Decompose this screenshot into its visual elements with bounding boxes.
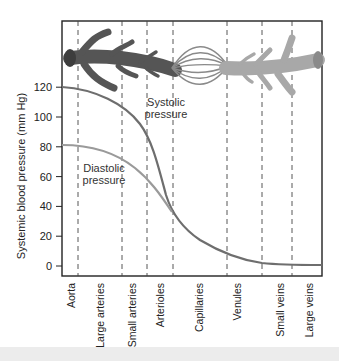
diastolic-annotation-line2: pressure — [83, 174, 126, 186]
blood-pressure-chart: 0 20 40 60 80 100 120 Systemic blood pre… — [0, 0, 339, 361]
y-tick-80: 80 — [40, 141, 52, 153]
category-small-veins: Small veins — [274, 283, 286, 337]
x-category-labels: Aorta Large arteries Small arteries Arte… — [65, 283, 315, 348]
y-tick-100: 100 — [34, 111, 52, 123]
category-small-arteries: Small arteries — [126, 283, 138, 347]
y-tick-60: 60 — [40, 171, 52, 183]
category-large-arteries: Large arteries — [94, 283, 106, 348]
y-axis-label: Systemic blood pressure (mm Hg) — [15, 93, 27, 259]
large-vein-opening — [313, 51, 323, 69]
category-capillaries: Capillaries — [193, 283, 205, 332]
systolic-annotation-line2: pressure — [145, 108, 188, 120]
category-large-veins: Large veins — [303, 283, 315, 337]
y-tick-20: 20 — [40, 230, 52, 242]
artery-tree — [70, 32, 175, 88]
category-venules: Venules — [231, 283, 243, 320]
y-axis: 0 20 40 60 80 100 120 Systemic blood pre… — [15, 81, 62, 272]
category-arterioles: Arterioles — [154, 283, 166, 327]
y-tick-40: 40 — [40, 200, 52, 212]
aorta-opening — [64, 49, 76, 67]
y-tick-120: 120 — [34, 81, 52, 93]
y-tick-0: 0 — [46, 260, 52, 272]
systolic-annotation-line1: Systolic — [147, 96, 185, 108]
vessel-illustration — [64, 32, 323, 92]
category-aorta: Aorta — [65, 283, 77, 308]
diastolic-annotation-line1: Diastolic — [83, 162, 125, 174]
vein-tree — [226, 38, 318, 92]
bottom-strip — [0, 347, 339, 361]
